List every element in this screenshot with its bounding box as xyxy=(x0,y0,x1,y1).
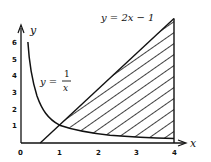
y-tick-4: 4 xyxy=(12,72,17,80)
hyperbola-label-numerator: 1 xyxy=(64,69,70,79)
hyperbola-label-denominator: x xyxy=(63,83,68,93)
y-tick-3: 3 xyxy=(12,89,17,97)
y-tick-6: 6 xyxy=(12,39,17,47)
y-tick-1: 1 xyxy=(12,122,17,130)
origin-label: 0 xyxy=(18,149,23,157)
labels-layer: y x 0 1 2 3 4 1 2 3 4 5 6 y = 2x − 1 y =… xyxy=(0,0,211,162)
y-axis-label: y xyxy=(29,24,37,37)
line-equation-label: y = 2x − 1 xyxy=(100,12,155,23)
x-tick-1: 1 xyxy=(57,149,62,157)
y-tick-5: 5 xyxy=(12,56,17,64)
x-tick-3: 3 xyxy=(134,149,139,157)
y-tick-2: 2 xyxy=(12,106,17,114)
x-tick-2: 2 xyxy=(96,149,101,157)
hyperbola-label-lhs: y = xyxy=(39,76,57,87)
x-axis-label: x xyxy=(190,137,197,150)
x-tick-4: 4 xyxy=(172,149,177,157)
